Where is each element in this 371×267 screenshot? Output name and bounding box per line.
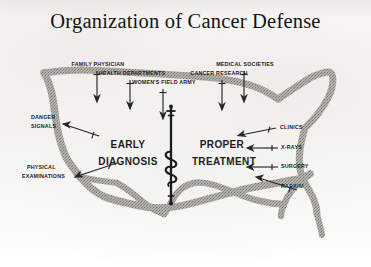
label-early-diagnosis-line1: EARLY — [91, 138, 165, 152]
label-physical-examinations-line2: EXAMINATIONS — [22, 172, 65, 179]
map-graphic — [0, 0, 371, 267]
label-cancer-research: CANCER RESEARCH — [185, 69, 252, 76]
label-danger-signals-line1: DANGER — [31, 113, 55, 120]
label-x-rays: X-RAYS — [281, 143, 302, 150]
label-health-departments: HEALTH DEPARTMENTS — [92, 69, 171, 76]
label-early-diagnosis-line2: DIAGNOSIS — [86, 155, 170, 169]
label-womens-field-army: WOMEN'S FIELD ARMY — [124, 78, 205, 85]
label-radium: RADIUM — [281, 182, 304, 189]
label-proper-treatment-line2: TREATMENT — [182, 155, 266, 169]
cancer-defense-poster: Organization of Cancer Defense — [0, 0, 371, 267]
label-medical-societies: MEDICAL SOCIETIES — [211, 60, 278, 67]
us-outline — [44, 70, 333, 235]
arrow-cancer-research — [218, 80, 225, 110]
arrow-clinics — [238, 127, 276, 137]
label-surgery: SURGERY — [281, 162, 309, 169]
arrow-danger-signals — [63, 122, 99, 138]
label-clinics: CLINICS — [280, 123, 303, 130]
label-family-physician: FAMILY PHYSICIAN — [65, 60, 130, 67]
arrow-womens-field-army — [159, 89, 166, 119]
label-physical-examinations-line1: PHYSICAL — [27, 163, 56, 170]
label-proper-treatment-line1: PROPER — [185, 138, 259, 152]
label-danger-signals-line2: SIGNALS — [31, 122, 56, 129]
